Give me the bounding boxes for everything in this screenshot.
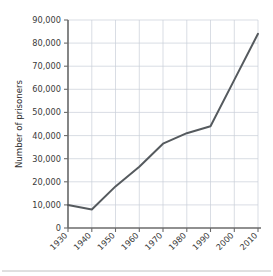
line-chart-canvas: 90,000 80,000 70,000 60,000 50,000 40,00… <box>0 0 273 276</box>
y-tick-label: 70,000 <box>32 61 61 71</box>
y-tick-label: 40,000 <box>32 131 61 141</box>
y-tick-label: 50,000 <box>32 107 61 117</box>
y-tick-label: 90,000 <box>32 15 61 25</box>
y-tick-label: 10,000 <box>32 200 61 210</box>
chart-figure: 90,000 80,000 70,000 60,000 50,000 40,00… <box>0 0 273 276</box>
y-tick-label: 80,000 <box>32 38 61 48</box>
y-tick-label: 30,000 <box>32 154 61 164</box>
y-tick-label: 60,000 <box>32 84 61 94</box>
y-axis-title: Number of prisoners <box>14 79 24 168</box>
y-tick-label: 20,000 <box>32 177 61 187</box>
